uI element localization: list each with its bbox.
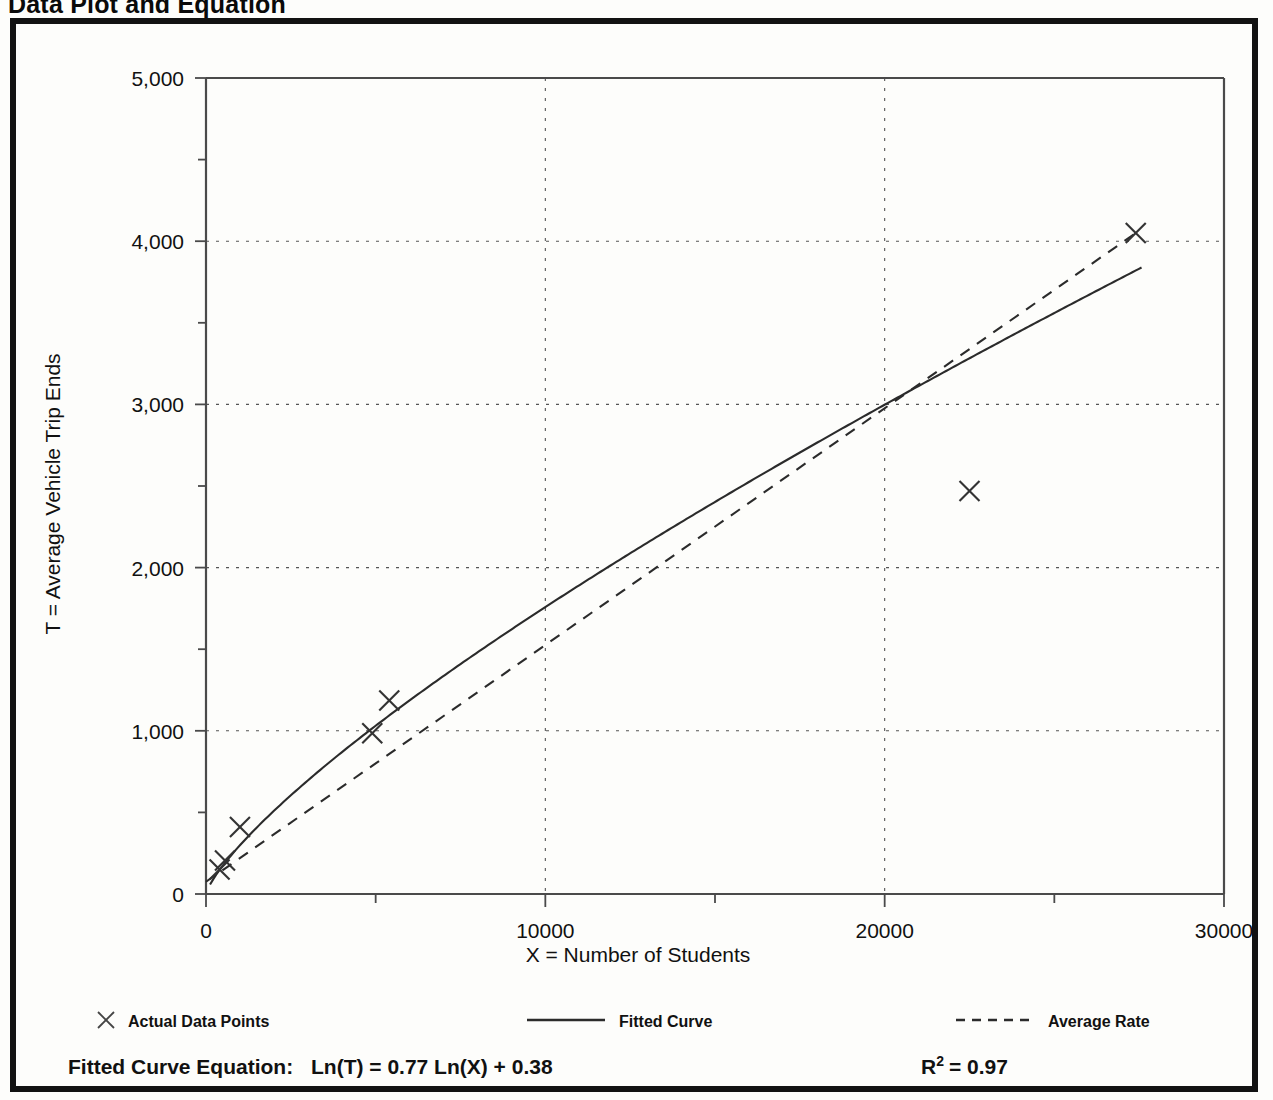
equation-row: Fitted Curve Equation: Ln(T) = 0.77 Ln(X…	[68, 1053, 1008, 1078]
r-exponent: 2	[936, 1053, 944, 1069]
y-tick-label: 2,000	[131, 557, 184, 580]
series-actual-data-points	[210, 223, 1146, 879]
equation-label-text: Fitted Curve Equation:	[68, 1055, 293, 1078]
series-fitted-curve	[210, 268, 1141, 885]
legend-item-average-rate: Average Rate	[956, 1013, 1150, 1030]
legend-label-average-rate: Average Rate	[1048, 1013, 1150, 1030]
chart-canvas: 01,0002,0003,0004,0005,000 0100002000030…	[16, 24, 1252, 1086]
equation-expression: Ln(T) = 0.77 Ln(X) + 0.38	[311, 1055, 553, 1078]
legend-label-fitted-curve: Fitted Curve	[619, 1013, 712, 1030]
data-point-marker	[1126, 223, 1146, 243]
x-tick-label: 20000	[855, 919, 913, 942]
r-value: = 0.97	[949, 1055, 1008, 1078]
axis-lines	[206, 78, 1224, 894]
r-squared-value: R2= 0.97	[921, 1053, 1008, 1078]
y-tick-label: 5,000	[131, 67, 184, 90]
data-point-marker	[960, 481, 980, 501]
x-tick-label: 0	[200, 919, 212, 942]
horizontal-gridlines	[206, 78, 1224, 731]
axis-ticks	[195, 78, 1224, 907]
equation-label: Fitted Curve Equation: Ln(T) = 0.77 Ln(X…	[68, 1055, 553, 1078]
series-average-rate	[206, 233, 1136, 882]
chart-frame: 01,0002,0003,0004,0005,000 0100002000030…	[10, 18, 1258, 1092]
y-tick-label: 3,000	[131, 393, 184, 416]
y-tick-label: 4,000	[131, 230, 184, 253]
r-symbol: R	[921, 1055, 936, 1078]
y-axis-tick-labels: 01,0002,0003,0004,0005,000	[131, 67, 184, 906]
legend-item-fitted-curve: Fitted Curve	[527, 1013, 712, 1030]
legend-label-actual-data-points: Actual Data Points	[128, 1013, 269, 1030]
x-marker-icon	[98, 1012, 114, 1028]
x-tick-label: 10000	[516, 919, 574, 942]
vertical-gridlines	[545, 78, 884, 894]
x-tick-label: 30000	[1195, 919, 1252, 942]
x-axis-tick-labels: 0100002000030000	[200, 919, 1252, 942]
data-point-marker	[379, 691, 399, 711]
y-tick-label: 0	[172, 883, 184, 906]
data-point-marker	[230, 817, 250, 837]
x-axis-title: X = Number of Students	[526, 943, 751, 966]
page-title: Data Plot and Equation	[8, 0, 286, 19]
chart-legend: Actual Data Points Fitted Curve Average …	[98, 1012, 1150, 1030]
y-tick-label: 1,000	[131, 720, 184, 743]
y-axis-title: T = Average Vehicle Trip Ends	[41, 353, 64, 634]
legend-item-actual-data-points: Actual Data Points	[98, 1012, 269, 1030]
